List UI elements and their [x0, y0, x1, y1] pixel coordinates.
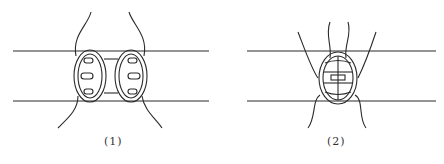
stitches-right	[128, 58, 140, 94]
caption-figure-2: (2)	[327, 135, 346, 148]
thread-top-right	[358, 32, 376, 78]
thread-top-right	[129, 12, 145, 56]
stitches-left	[81, 58, 93, 94]
figure-1	[13, 12, 209, 128]
caption-figure-1: (1)	[104, 135, 123, 148]
ring-inner-right	[119, 54, 143, 98]
thread-top-left	[75, 12, 91, 56]
thread-top-left	[298, 32, 318, 78]
diagram-canvas	[0, 0, 444, 164]
ring-inner-left	[78, 54, 102, 98]
thread-bottom-left	[308, 95, 320, 128]
thread-bottom-right	[355, 95, 366, 128]
figure-2	[247, 22, 436, 128]
